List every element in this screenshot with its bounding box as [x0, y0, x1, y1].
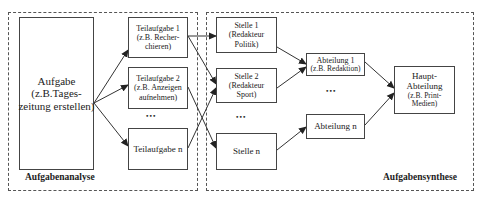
node-aufgabe-line: (z.B.Tages-	[31, 87, 82, 100]
node-stelle-1-line: Stelle 1	[234, 21, 258, 30]
node-stelle-n-line: Stelle n	[233, 146, 260, 156]
edge-aufgabe-teilaufgabe1	[94, 50, 128, 103]
node-stelle-1: Stelle 1 (Redakteur Politik)	[216, 17, 277, 53]
ellipsis-stellen: •••	[236, 113, 246, 121]
node-abteilung-1-line: (z.B. Redaktion)	[311, 65, 361, 74]
node-abteilung-1: Abteilung 1 (z.B. Redaktion)	[306, 53, 365, 76]
node-aufgabe-line: Aufgabe	[38, 75, 76, 88]
node-stelle-1-line: (Redakteur	[229, 30, 265, 39]
edge-stelle2-abteilung1	[277, 67, 306, 88]
node-teilaufgabe-2-line: (z.B. Anzeigen	[134, 83, 182, 92]
node-stelle-1-line: Politik)	[234, 40, 258, 49]
node-hauptabteilung-line: Medien)	[412, 100, 437, 109]
edge-stellen-abteilungn	[277, 127, 306, 150]
ellipsis-abteilungen: •••	[326, 87, 336, 95]
edge-teilaufgabe1-stelle2	[188, 36, 216, 84]
edge-aufgabe-teilaufgaben	[94, 103, 128, 146]
node-stelle-2-line: Stelle 2	[234, 72, 258, 81]
node-stelle-n: Stelle n	[216, 133, 277, 170]
node-teilaufgabe-1-line: Teilaufgabe 1	[136, 24, 180, 33]
edge-abteilungn-hauptabteilung	[365, 93, 394, 125]
node-teilaufgabe-n: Teilaufgabe n	[128, 128, 188, 170]
edge-stelle1-abteilung1	[277, 47, 306, 64]
node-teilaufgabe-2: Teilaufgabe 2 (z.B. Anzeigen aufnehmen)	[128, 67, 188, 109]
node-teilaufgabe-2-line: Teilaufgabe 2	[136, 74, 180, 83]
node-teilaufgabe-1: Teilaufgabe 1 (z.B. Recher- chieren)	[128, 17, 188, 58]
node-teilaufgabe-1-line: (z.B. Recher-	[137, 33, 180, 42]
node-teilaufgabe-1-line: chieren)	[145, 42, 171, 51]
edge-aufgabe-teilaufgabe2	[94, 85, 128, 103]
node-abteilung-n-line: Abteilung n	[314, 121, 357, 131]
node-hauptabteilung-line: Haupt-	[412, 71, 437, 81]
node-stelle-2-line: Sport)	[237, 90, 257, 99]
node-teilaufgabe-2-line: aufnehmen)	[139, 93, 177, 102]
edge-abteilung1-hauptabteilung	[365, 62, 394, 88]
node-stelle-2-line: (Redakteur	[229, 81, 265, 90]
node-aufgabe: Aufgabe (z.B.Tages- zeitung erstellen)	[19, 17, 94, 170]
ellipsis-teilaufgaben: •••	[146, 112, 156, 120]
node-hauptabteilung: Haupt- Abteilung (z.B. Print- Medien)	[394, 66, 455, 114]
node-stelle-2: Stelle 2 (Redakteur Sport)	[216, 68, 277, 103]
node-teilaufgabe-n-line: Teilaufgabe n	[133, 144, 182, 154]
node-abteilung-n: Abteilung n	[306, 114, 365, 139]
node-aufgabe-line: zeitung erstellen)	[18, 100, 94, 113]
